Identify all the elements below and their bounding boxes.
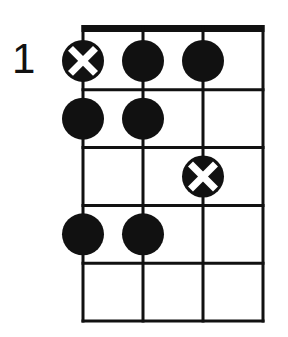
dot-icon [122,40,164,82]
nut [82,25,265,32]
root-note-marker [182,156,224,198]
note-dot [62,213,104,255]
note-dot [122,98,164,140]
note-dot [182,40,224,82]
dot-icon [62,98,104,140]
dot-icon [62,213,104,255]
note-dot [122,213,164,255]
dot-icon [122,213,164,255]
dot-icon [122,98,164,140]
root-note-marker [62,40,104,82]
fretboard-grid [82,25,265,323]
note-dot [62,98,104,140]
dot-icon [182,40,224,82]
fretboard-diagram [0,0,288,337]
note-dot [122,40,164,82]
